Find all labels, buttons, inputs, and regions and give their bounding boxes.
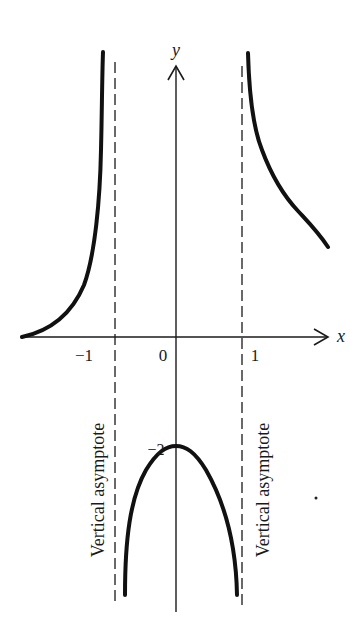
print-speck bbox=[315, 497, 318, 500]
x-axis bbox=[22, 329, 328, 345]
x-tick-0: 0 bbox=[159, 346, 168, 365]
y-axis-label: y bbox=[170, 40, 180, 60]
right-branch-curve bbox=[248, 53, 328, 247]
y-axis bbox=[168, 66, 184, 612]
left-branch-curve bbox=[22, 52, 103, 337]
left-asymptote-label: Vertical asymptote bbox=[88, 423, 108, 557]
y-tick-neg2: −2 bbox=[147, 441, 164, 458]
right-asymptote-label: Vertical asymptote bbox=[253, 423, 273, 557]
x-tick-1: 1 bbox=[251, 346, 260, 365]
x-tick-neg1: −1 bbox=[75, 346, 93, 365]
graph-canvas: −1 0 1 −2 y x Vertical asymptote Vertica… bbox=[0, 0, 350, 634]
x-axis-label: x bbox=[336, 326, 345, 346]
middle-branch-curve bbox=[125, 446, 237, 595]
